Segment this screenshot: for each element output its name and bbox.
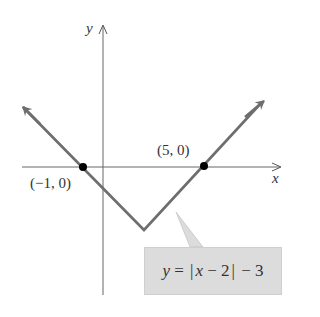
point-right bbox=[200, 162, 208, 170]
right-arrow bbox=[245, 101, 264, 117]
left-arrow bbox=[23, 107, 40, 124]
eq-inner: − 2 bbox=[203, 261, 230, 281]
callout-pointer bbox=[176, 212, 203, 247]
y-axis-label: y bbox=[86, 20, 93, 37]
eq-abs-close: | bbox=[232, 261, 235, 281]
eq-x: x bbox=[195, 261, 203, 281]
point-right-label: (5, 0) bbox=[157, 142, 190, 159]
x-axis-label: x bbox=[272, 170, 279, 187]
eq-y: y bbox=[162, 261, 170, 281]
equation-callout: y = | x − 2 | − 3 bbox=[144, 247, 282, 295]
function-graph bbox=[23, 102, 262, 230]
point-left bbox=[79, 163, 87, 171]
eq-tail: − 3 bbox=[237, 261, 264, 281]
eq-abs-open: | bbox=[190, 261, 193, 281]
eq-equals: = bbox=[170, 261, 188, 281]
point-left-label: (−1, 0) bbox=[30, 175, 71, 192]
